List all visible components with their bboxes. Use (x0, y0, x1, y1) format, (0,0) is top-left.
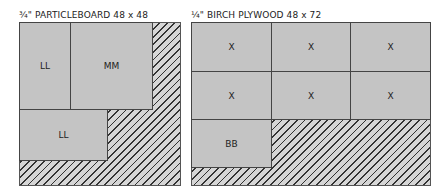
cut-piece-x-6: X (350, 71, 431, 120)
cut-piece-x-4: X (191, 71, 272, 120)
piece-label: X (228, 91, 234, 101)
cut-piece-bb: BB (191, 119, 272, 168)
piece-label: X (228, 42, 234, 52)
cut-piece-ll-1: LL (19, 22, 71, 110)
sheet-title-particleboard: ¾" PARTICLEBOARD 48 x 48 (19, 10, 148, 20)
piece-label: LL (58, 130, 68, 140)
cut-piece-x-1: X (191, 22, 272, 72)
cutting-sheet-birch-plywood: X X X X X X BB (191, 22, 431, 186)
piece-label: X (308, 91, 314, 101)
piece-label: X (387, 91, 393, 101)
cut-piece-ll-2: LL (19, 109, 108, 161)
sheet-title-birch-plywood: ¼" BIRCH PLYWOOD 48 x 72 (191, 10, 321, 20)
cutting-sheet-particleboard: LL MM LL (19, 22, 181, 186)
piece-label: X (308, 42, 314, 52)
piece-label: BB (225, 139, 237, 149)
cut-piece-x-5: X (271, 71, 351, 120)
cut-piece-x-3: X (350, 22, 431, 72)
cut-piece-x-2: X (271, 22, 351, 72)
cut-piece-mm: MM (70, 22, 153, 110)
piece-label: MM (104, 61, 120, 71)
piece-label: X (387, 42, 393, 52)
piece-label: LL (40, 61, 50, 71)
